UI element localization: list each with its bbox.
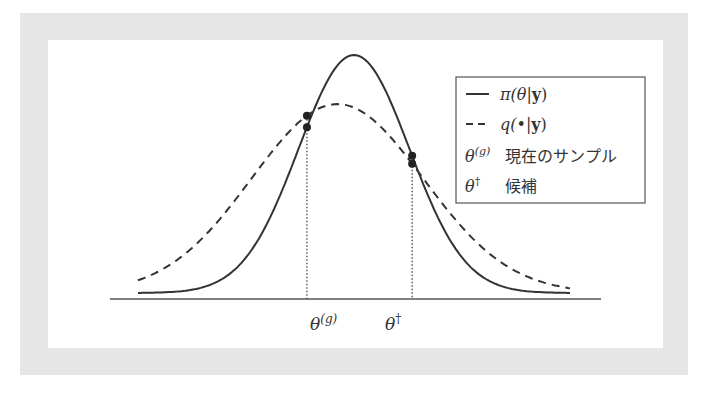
legend-current-label: 現在のサンプル [505,147,617,166]
legend-target-label: π(θ|y) [499,85,547,104]
current-target-point [303,123,311,131]
legend: π(θ|y) q(•|y) θ(g) 現在のサンプル θ† 候補 [456,77,645,203]
legend-proposal-label: q(•|y) [500,115,547,134]
candidate-target-point [408,152,416,160]
candidate-axis-label: θ† [385,312,401,334]
current-sample-axis-label: θ(g) [310,312,338,334]
legend-box [456,77,645,203]
density-plot: θ(g) θ† π(θ|y) q(•|y) θ(g) 現在のサンプル θ† 候補 [0,0,707,397]
candidate-proposal-point [408,160,416,168]
legend-candidate-label: 候補 [505,177,537,196]
current-proposal-point [303,112,311,120]
figure: θ(g) θ† π(θ|y) q(•|y) θ(g) 現在のサンプル θ† 候補 [0,0,707,397]
